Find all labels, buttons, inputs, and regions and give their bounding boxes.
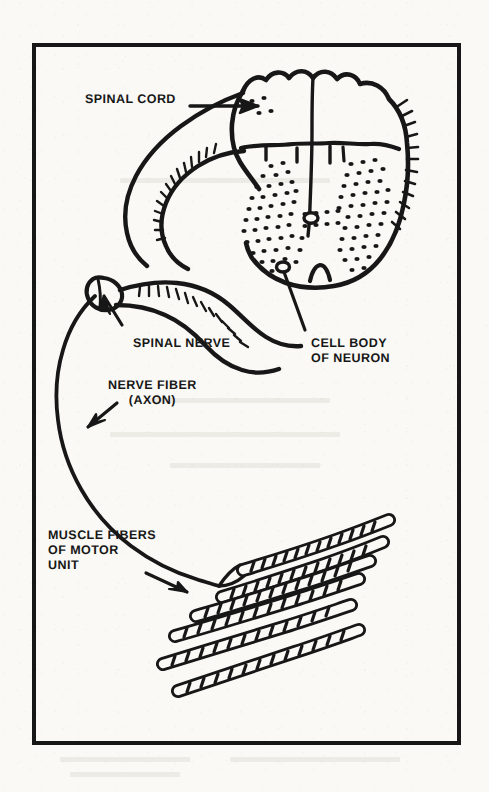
cell-body-leader-line — [284, 272, 305, 330]
central-canal — [304, 213, 318, 223]
cord-right-hatching — [392, 100, 418, 229]
label-spinal-cord: SPINAL CORD — [85, 92, 176, 107]
diagram-artwork — [0, 0, 489, 792]
dorsal-root — [125, 93, 244, 269]
label-nerve-fiber-axon: NERVE FIBER (AXON) — [108, 378, 197, 408]
figure-page: SPINAL CORD SPINAL NERVE CELL BODY OF NE… — [0, 0, 489, 792]
gray-matter-butterfly — [241, 96, 390, 273]
cell-body-oval — [277, 262, 290, 272]
muscle-fibers-arrow — [146, 573, 187, 592]
ventral-root-and-spinal-nerve — [116, 282, 301, 372]
label-cell-body-of-neuron: CELL BODY OF NEURON — [311, 336, 390, 366]
label-spinal-nerve: SPINAL NERVE — [133, 336, 230, 351]
muscle-fiber — [178, 630, 359, 692]
muscle-fiber-bundle — [163, 520, 389, 692]
label-muscle-fibers-of-motor-unit: MUSCLE FIBERS OF MOTOR UNIT — [48, 528, 156, 573]
